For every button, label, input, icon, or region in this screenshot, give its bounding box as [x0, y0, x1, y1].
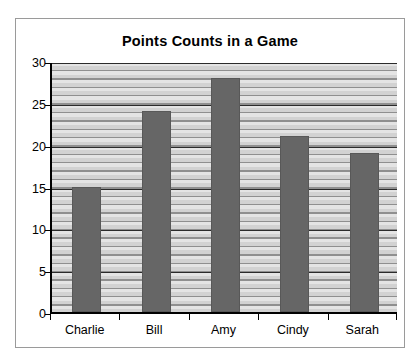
x-tick-mark-2	[189, 314, 190, 320]
y-tick-label-0: 0	[20, 308, 46, 321]
x-tick-mark-0	[50, 314, 51, 320]
y-tick-label-5: 5	[20, 266, 46, 279]
x-tick-mark-4	[328, 314, 329, 320]
x-tick-mark-3	[258, 314, 259, 320]
x-tick-mark-1	[119, 314, 120, 320]
y-axis-tick-labels: 051015202530	[16, 63, 46, 314]
chart-title: Points Counts in a Game	[16, 33, 404, 49]
bar-series	[52, 63, 397, 312]
chart-frame: Points Counts in a Game 051015202530 Cha…	[15, 18, 405, 348]
bar-bill[interactable]	[142, 111, 171, 312]
bar-sarah[interactable]	[350, 153, 379, 312]
y-tick-label-20: 20	[20, 140, 46, 153]
y-tick-label-10: 10	[20, 224, 46, 237]
y-tick-label-25: 25	[20, 99, 46, 112]
bar-cindy[interactable]	[280, 136, 309, 312]
x-tick-mark-5	[396, 314, 397, 320]
plot-area	[50, 63, 397, 314]
y-tick-label-15: 15	[20, 182, 46, 195]
x-axis-tick-marks	[50, 314, 397, 320]
bar-amy[interactable]	[211, 78, 240, 312]
x-axis-tick-labels: CharlieBillAmyCindySarah	[50, 323, 397, 343]
x-tick-label-bill: Bill	[119, 323, 189, 337]
x-tick-label-sarah: Sarah	[327, 323, 397, 337]
x-tick-label-charlie: Charlie	[50, 323, 120, 337]
x-tick-label-amy: Amy	[189, 323, 259, 337]
y-tick-label-30: 30	[20, 57, 46, 70]
x-tick-label-cindy: Cindy	[258, 323, 328, 337]
bar-charlie[interactable]	[72, 187, 101, 313]
